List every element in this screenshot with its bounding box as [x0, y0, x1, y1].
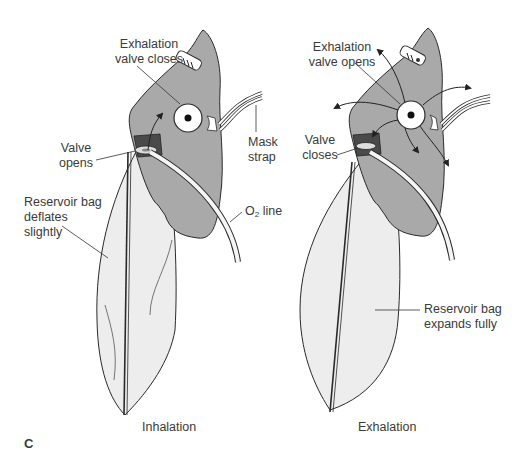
label-valve-closes: Valve closes [300, 133, 340, 163]
label-line: Exhalation [292, 40, 392, 55]
label-reservoir-bag-expands: Reservoir bag expands fully [424, 302, 502, 332]
label-line: expands fully [424, 317, 502, 332]
label-line: valve opens [292, 55, 392, 70]
label-line: opens [56, 156, 96, 171]
label-exhalation-valve-opens: Exhalation valve opens [292, 40, 392, 70]
label-line: strap [248, 150, 278, 165]
inhalation-valve-closed [356, 143, 376, 150]
label-mask-strap: Mask strap [248, 135, 278, 165]
exhalation-illustration [300, 28, 490, 412]
o2-prefix: O [245, 204, 255, 218]
caption-inhalation: Inhalation [142, 420, 196, 435]
label-line: Valve [56, 141, 96, 156]
label-line: Reservoir bag [424, 302, 502, 317]
label-valve-opens: Valve opens [56, 141, 96, 171]
panel-letter: C [24, 436, 33, 451]
label-o2-line: O2 line [245, 204, 282, 222]
label-line: Mask [248, 135, 278, 150]
label-line: Exhalation [94, 37, 204, 52]
label-line: deflates [24, 210, 102, 225]
label-exhalation-valve-closes: Exhalation valve closes [94, 37, 204, 67]
caption-exhalation: Exhalation [358, 420, 416, 435]
label-line: Valve [300, 133, 340, 148]
label-line: Reservoir bag [24, 195, 102, 210]
o2-suffix: line [259, 204, 282, 218]
label-line: closes [300, 148, 340, 163]
label-line: slightly [24, 225, 102, 240]
label-reservoir-bag-deflates: Reservoir bag deflates slightly [24, 195, 102, 240]
label-line: valve closes [94, 52, 204, 67]
